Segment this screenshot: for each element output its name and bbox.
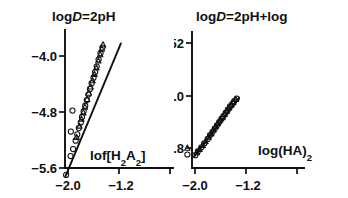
figure-root: logD=2pH −4.0 −4.8 −5.6 −2.0 −1.2 lof[H2… xyxy=(0,0,348,198)
left-panel-ytick-1: −4.8 xyxy=(31,105,57,120)
data-point-triangle xyxy=(100,42,105,47)
right-panel-title: logD=2pH+log xyxy=(196,9,288,24)
right-panel-xlabel: log(HA)2 xyxy=(258,143,312,163)
left-panel-ytick-2: −5.6 xyxy=(31,161,57,176)
left-panel-xtick-1: −1.2 xyxy=(108,178,134,193)
chart-panel-right: logD=2pH+log −52 −5.0 −5.8 −2.0 −1.2 log… xyxy=(174,0,348,198)
left-panel-title: logD=2pH xyxy=(52,9,115,24)
right-panel-xtick-0: −2.0 xyxy=(182,178,208,193)
data-point-circle xyxy=(70,108,75,113)
chart-panel-left: logD=2pH −4.0 −4.8 −5.6 −2.0 −1.2 lof[H2… xyxy=(0,0,174,198)
right-panel-ytick-0: −52 xyxy=(174,36,184,51)
left-panel-svg: logD=2pH −4.0 −4.8 −5.6 −2.0 −1.2 lof[H2… xyxy=(0,0,174,198)
data-point-circle xyxy=(71,147,76,152)
left-panel-xlabel: lof[H2A2] xyxy=(90,148,146,168)
right-panel-xtick-1: −1.2 xyxy=(235,178,261,193)
data-point-circle xyxy=(68,129,73,134)
right-panel-ytick-1: −5.0 xyxy=(174,89,184,104)
data-point-circle xyxy=(68,154,73,159)
left-panel-xtick-0: −2.0 xyxy=(55,178,81,193)
right-panel-ytick-2: −5.8 xyxy=(174,141,184,156)
data-point-circle xyxy=(185,152,190,157)
right-panel-svg: logD=2pH+log −52 −5.0 −5.8 −2.0 −1.2 log… xyxy=(174,0,348,198)
left-panel-ytick-0: −4.0 xyxy=(31,49,57,64)
